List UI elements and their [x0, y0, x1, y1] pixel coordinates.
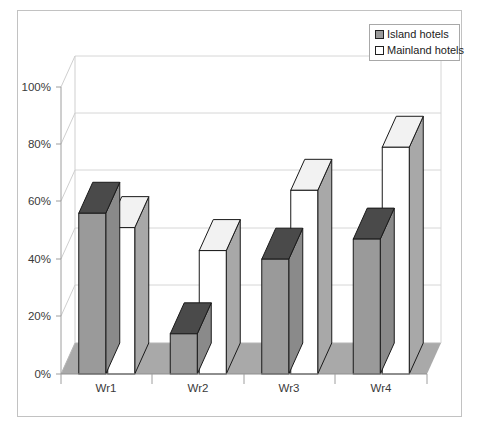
bar-front-face [79, 213, 106, 374]
plot-left-wall [61, 56, 75, 374]
x-tick-label-wr2: Wr2 [188, 382, 209, 394]
legend[interactable]: Island hotels Mainland hotels [370, 25, 465, 61]
x-tick-label-wr4: Wr4 [371, 382, 392, 394]
x-tick-label-wr1: Wr1 [96, 382, 117, 394]
bar-wr1-island[interactable] [79, 182, 120, 374]
bar-wr4-island[interactable] [353, 208, 394, 374]
bar-wr3-island[interactable] [262, 228, 303, 374]
y-tick-label-100: 100% [22, 81, 51, 93]
legend-label-island-hotels: Island hotels [387, 28, 449, 40]
legend-entry-mainland-hotels[interactable]: Mainland hotels [376, 44, 465, 56]
bar-front-face [170, 334, 197, 374]
white-swatch-icon [376, 47, 384, 55]
gray-swatch-icon [376, 31, 384, 39]
legend-label-mainland-hotels: Mainland hotels [387, 44, 465, 56]
y-tick-label-0: 0% [34, 368, 51, 380]
bar-front-face [262, 259, 289, 374]
y-tick-label-60: 60% [28, 195, 51, 207]
legend-entry-island-hotels[interactable]: Island hotels [376, 28, 450, 40]
chart-container: 100% 80% 60% 40% 20% 0% Wr1 Wr2 Wr3 Wr4 [0, 0, 478, 427]
bar-side-face [318, 159, 332, 374]
x-tick-label-wr3: Wr3 [279, 382, 300, 394]
bar-side-face [106, 182, 120, 374]
bar-chart-svg: 100% 80% 60% 40% 20% 0% Wr1 Wr2 Wr3 Wr4 [0, 0, 478, 427]
y-tick-label-80: 80% [28, 138, 51, 150]
y-tick-label-40: 40% [28, 253, 51, 265]
bar-front-face [353, 239, 380, 374]
bar-side-face [409, 116, 423, 374]
y-tick-label-20: 20% [28, 310, 51, 322]
